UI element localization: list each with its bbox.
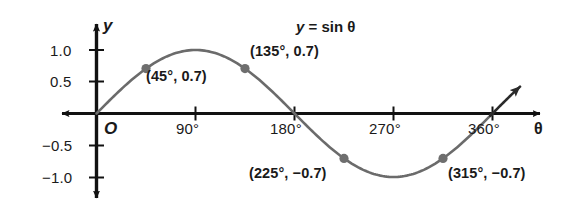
equation-label: y = sin θ [296,19,355,34]
data-point-315 [438,154,447,163]
y-tick-label-0.5: 0.5 [50,74,71,89]
sine-graph-figure: 1.0 0.5 −0.5 −1.0 90° 180° 270° 360° y θ… [0,0,577,209]
y-tick-label-neg0.5: −0.5 [42,138,72,153]
x-tick-label-270: 270° [369,121,401,136]
y-axis-label: y [103,17,112,34]
equation-operator: = [309,18,318,35]
x-tick-label-180: 180° [270,121,302,136]
y-tick-label-neg1.0: −1.0 [42,170,72,185]
point-label-45: (45°, 0.7) [146,69,207,84]
origin-label: O [104,120,117,137]
x-axis-label: θ [534,121,543,137]
point-label-315: (315°, −0.7) [448,166,526,181]
point-label-225: (225°, −0.7) [249,166,327,181]
x-tick-label-90: 90° [176,121,199,136]
equation-rhs: sin θ [321,18,355,35]
data-point-225 [339,154,348,163]
point-label-135: (135°, 0.7) [250,44,319,59]
sine-curve-right-tail [490,87,520,116]
x-tick-label-360: 360° [468,121,500,136]
data-point-135 [240,64,249,73]
y-tick-label-1.0: 1.0 [50,43,71,58]
